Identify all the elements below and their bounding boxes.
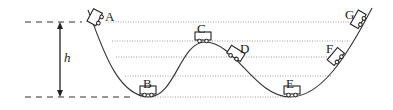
label-G: G <box>345 7 354 22</box>
cart-A <box>87 9 105 27</box>
label-D: D <box>240 41 249 56</box>
height-label: h <box>64 50 71 65</box>
label-F: F <box>326 41 333 56</box>
label-A: A <box>105 9 115 24</box>
label-C: C <box>197 21 206 36</box>
height-arrow <box>57 22 63 97</box>
label-E: E <box>286 76 294 91</box>
label-B: B <box>143 76 152 91</box>
roller-coaster-diagram: h A B C D E F G <box>0 0 393 110</box>
